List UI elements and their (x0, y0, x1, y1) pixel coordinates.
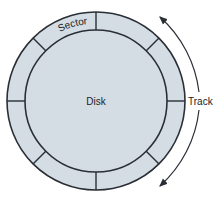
disk-diagram: Sector Disk Track (0, 0, 220, 199)
track-label: Track (188, 96, 214, 107)
disk-label: Disk (86, 96, 106, 107)
